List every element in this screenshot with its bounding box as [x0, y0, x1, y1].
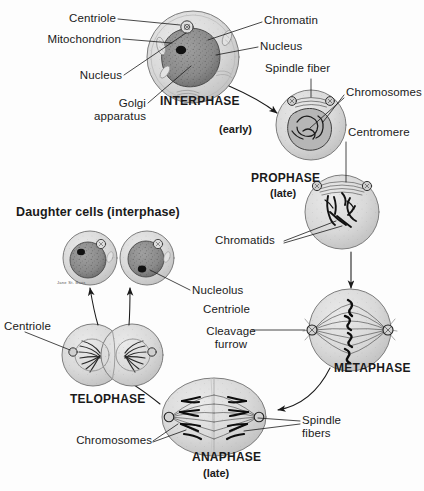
label-golgi-line1: Golgi	[0, 97, 146, 109]
arrow-metaphase-to-anaphase	[278, 368, 330, 410]
label-nucleus-right: Nucleus	[260, 40, 302, 52]
label-phase-telophase: TELOPHASE	[70, 393, 146, 406]
label-phase-anaphase-late: (late)	[203, 468, 229, 480]
label-phase-prophase: PROPHASE	[251, 172, 320, 185]
label-phase-interphase: INTERPHASE	[160, 95, 240, 108]
label-centriole-telophase: Centriole	[4, 320, 51, 332]
label-spindle-fiber: Spindle fiber	[265, 62, 330, 74]
label-phase-prophase-early: (early)	[219, 124, 252, 136]
artist-signature: Jane St. Bass	[57, 281, 86, 285]
cell-prophase-late	[305, 175, 379, 249]
label-nucleus-left: Nucleus	[0, 69, 122, 81]
label-centriole-top: Centriole	[0, 12, 116, 24]
arrow-telophase-to-daughter-left	[90, 288, 98, 325]
label-chromosomes-bottom: Chromosomes	[60, 434, 152, 446]
label-phase-prophase-late: (late)	[270, 188, 296, 200]
cell-daughter-right	[120, 231, 174, 285]
label-centromere: Centromere	[348, 126, 410, 138]
label-mitochondrion: Mitochondrion	[0, 33, 121, 45]
label-cleavage-line2: furrow	[196, 338, 266, 350]
label-cleavage-line1: Cleavage	[196, 325, 266, 337]
label-nucleolus: Nucleolus	[192, 284, 243, 296]
cell-daughter-left	[63, 231, 117, 285]
cell-prophase-early	[276, 90, 346, 160]
label-spindle-fibers-line1: Spindle	[302, 414, 341, 426]
label-chromatids: Chromatids	[215, 234, 275, 246]
cell-interphase	[147, 11, 239, 103]
cell-anaphase	[162, 378, 266, 456]
label-chromosomes-top: Chromosomes	[346, 86, 422, 98]
label-spindle-fibers-line2: fibers	[302, 427, 331, 439]
label-daughter-cells: Daughter cells (interphase)	[16, 206, 180, 219]
label-centriole-metaphase: Centriole	[160, 303, 250, 315]
label-chromatin: Chromatin	[264, 14, 318, 26]
arrow-telophase-to-daughter-right	[129, 288, 130, 325]
cell-telophase	[62, 324, 163, 386]
cell-metaphase	[303, 289, 397, 371]
label-phase-metaphase: METAPHASE	[334, 362, 411, 375]
mitosis-diagram: Centriole Mitochondrion Nucleus Golgi ap…	[0, 0, 424, 491]
label-golgi-line2: apparatus	[0, 110, 146, 122]
leader-centriole-telophase	[25, 332, 70, 350]
label-phase-anaphase: ANAPHASE	[192, 451, 261, 464]
